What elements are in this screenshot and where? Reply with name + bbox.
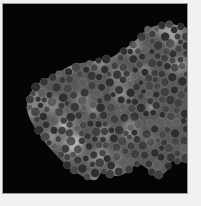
particle-cluster-image [3, 4, 187, 193]
page-background [0, 0, 201, 206]
micrograph-frame [3, 4, 187, 193]
